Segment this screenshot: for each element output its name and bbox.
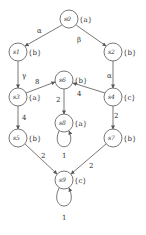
svg-text:s5: s5: [13, 134, 20, 141]
edge-label: β: [77, 36, 81, 44]
edge-label: 4: [22, 114, 27, 122]
edge-label: γ: [22, 72, 26, 80]
edge-label: 1: [62, 214, 66, 222]
node-s9: s9 {c}: [55, 171, 87, 189]
svg-text:{b}: {b}: [28, 49, 41, 57]
svg-text:s3: s3: [13, 93, 20, 100]
edge-label: α: [37, 27, 42, 35]
svg-text:{b}: {b}: [28, 135, 41, 143]
svg-text:s0: s0: [64, 15, 71, 22]
svg-text:{c}: {c}: [123, 94, 136, 102]
edge-label: 1: [62, 152, 66, 160]
svg-text:s4: s4: [108, 93, 115, 100]
edge-s3-s6: [26, 82, 55, 93]
edge-label: 2: [41, 152, 45, 160]
svg-text:{a}: {a}: [28, 94, 41, 102]
svg-text:s8: s8: [59, 119, 66, 126]
svg-text:{a}: {a}: [74, 120, 87, 128]
node-s8: s8 {a}: [55, 114, 87, 132]
edge-s9-self: [57, 188, 72, 206]
svg-text:s1: s1: [13, 48, 20, 55]
edge-label: 2: [89, 162, 93, 170]
edge-label: 2: [56, 96, 60, 104]
transition-graph: α β γ α 8 4 2 1 4 2 2 2 1 s0 {a} s1 {b} …: [0, 0, 146, 235]
node-s4: s4 {c}: [104, 88, 136, 106]
edge-label: 4: [77, 90, 82, 98]
edge-label: 2: [114, 112, 118, 120]
edge-s8-self: [57, 131, 71, 147]
svg-text:s7: s7: [108, 134, 115, 141]
node-s3: s3 {a}: [9, 88, 41, 106]
svg-text:s2: s2: [108, 48, 115, 55]
edge-s0-s1: [25, 25, 62, 46]
svg-text:{b}: {b}: [123, 135, 136, 143]
svg-text:s6: s6: [59, 76, 66, 83]
svg-text:{b}: {b}: [123, 49, 136, 57]
svg-text:{a}: {a}: [79, 16, 92, 24]
node-s7: s7 {b}: [104, 129, 136, 147]
svg-text:{b}: {b}: [74, 77, 87, 85]
edge-label: α: [107, 72, 112, 80]
node-s2: s2 {b}: [104, 43, 136, 61]
svg-text:s9: s9: [59, 176, 66, 183]
svg-text:{c}: {c}: [74, 177, 87, 185]
edge-label: 8: [35, 78, 39, 86]
